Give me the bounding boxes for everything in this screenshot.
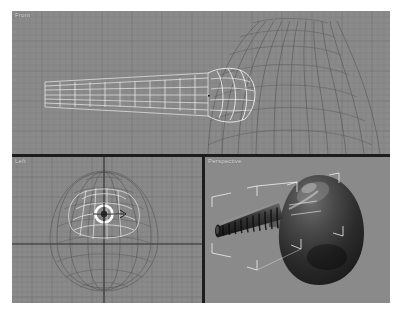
viewport-divider-horizontal[interactable]: [12, 154, 390, 157]
viewport-label-perspective: Perspective: [208, 158, 242, 164]
perspective-selection-brackets: [205, 157, 390, 303]
front-tube-selection-wireframe: [12, 11, 390, 154]
viewport-front[interactable]: Front: [12, 11, 390, 154]
left-tube-end-on-selection: [12, 157, 202, 303]
viewport-workspace: Front: [12, 11, 390, 303]
viewport-divider-vertical[interactable]: [202, 157, 205, 303]
viewport-label-left: Left: [15, 158, 26, 164]
viewport-perspective[interactable]: Perspective: [205, 157, 390, 303]
viewport-label-front: Front: [15, 12, 30, 18]
viewport-left[interactable]: Left: [12, 157, 202, 303]
